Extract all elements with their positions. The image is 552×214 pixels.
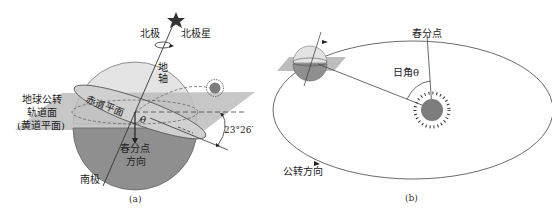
label-polaris: 北极星	[181, 28, 211, 40]
caption-a: (a)	[129, 194, 141, 204]
label-south-pole: 南极	[80, 174, 100, 186]
label-tilt-angle: 23°26′	[224, 124, 253, 136]
label-vernal-direction-1: 春分点	[120, 143, 150, 155]
label-vernal-direction-2: 方向	[126, 156, 146, 168]
label-orbital-plane-3: (黄道平面)	[17, 120, 65, 132]
sun-a-icon	[210, 83, 221, 94]
solar-angle-arc	[407, 81, 430, 99]
label-earth-axis: 地轴	[155, 62, 167, 84]
small-rotation-arrow-icon	[322, 40, 328, 44]
label-north-pole: 北极	[140, 28, 160, 40]
rotation-arrowhead-icon	[169, 44, 174, 48]
polaris-star-icon	[167, 12, 185, 28]
caption-b: (b)	[405, 193, 418, 203]
vernal-equinox-line	[427, 35, 432, 109]
sun-b-icon	[421, 99, 443, 121]
label-vernal-equinox: 春分点	[412, 28, 442, 40]
label-solar-angle: 日角θ	[393, 67, 419, 79]
small-earth-upper	[293, 46, 327, 63]
diagram-canvas: 北极 北极星 地轴 赤道平面 地球公转 轨道面 (黄道平面) θ 春分点 方向 …	[0, 0, 552, 214]
label-theta: θ	[140, 114, 146, 126]
label-orbital-plane-1: 地球公转	[22, 94, 62, 106]
label-orbital-plane-2: 轨道面	[27, 107, 57, 119]
label-revolution-direction: 公转方向	[283, 166, 323, 178]
panel-b-graphics	[273, 32, 552, 179]
